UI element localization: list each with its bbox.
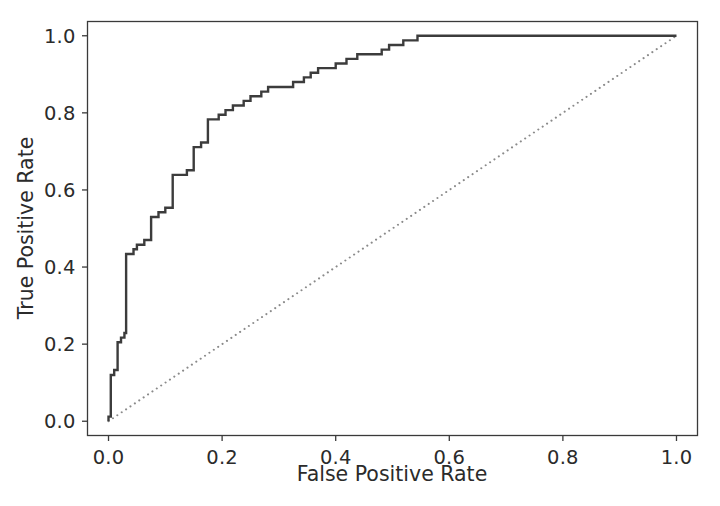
roc-chart-figure: 0.00.20.40.60.81.0 0.00.20.40.60.81.0 Fa… [0, 0, 720, 506]
x-axis-title: False Positive Rate [297, 462, 488, 486]
x-tick-label: 1.0 [661, 446, 693, 469]
x-tick-label: 0.0 [93, 446, 125, 469]
x-tick-label: 0.2 [206, 446, 238, 469]
y-axis-title: True Positive Rate [14, 137, 38, 320]
plot-canvas [0, 0, 720, 506]
x-tick-label: 0.8 [547, 446, 579, 469]
